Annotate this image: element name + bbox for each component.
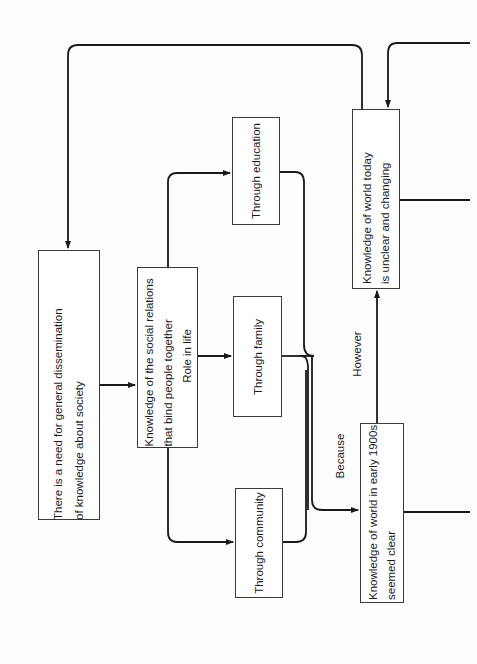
edge-label-because: Because <box>334 434 346 479</box>
node-social-line-3: Role in life <box>177 265 196 446</box>
node-family-label: Through family <box>247 296 268 417</box>
node-world-early-1900s: Knowledge of world in early 1900s seemed… <box>360 423 404 603</box>
node-social-relations: Knowledge of the social relations that b… <box>137 267 198 448</box>
edge-label-however: However <box>351 331 363 376</box>
node-need-line-2: of knowledge about society <box>69 250 90 520</box>
edge-social-to-education <box>168 173 230 267</box>
node-today-line-1: Knowledge of world today <box>358 104 376 284</box>
node-today-line-2: is unclear and changing <box>376 104 394 284</box>
node-social-line-1: Knowledge of the social relations <box>139 265 158 446</box>
node-community-label: Through community <box>249 488 270 598</box>
diagram-page: There is a need for general disseminatio… <box>0 0 477 664</box>
node-social-line-2: that bind people together <box>158 265 177 446</box>
edge-social-to-community <box>168 448 233 542</box>
node-through-family: Through family <box>233 296 282 417</box>
node-early-line-2: seemed clear <box>382 420 400 600</box>
node-need-line-1: There is a need for general disseminatio… <box>48 250 69 520</box>
edge-today-to-need <box>68 45 362 248</box>
node-through-education: Through education <box>232 117 280 225</box>
node-need-dissemination: There is a need for general disseminatio… <box>38 250 100 520</box>
node-early-line-1: Knowledge of world in early 1900s <box>364 420 382 600</box>
node-world-today: Knowledge of world today is unclear and … <box>352 109 400 289</box>
node-education-label: Through education <box>246 117 267 225</box>
node-through-community: Through community <box>235 488 283 598</box>
